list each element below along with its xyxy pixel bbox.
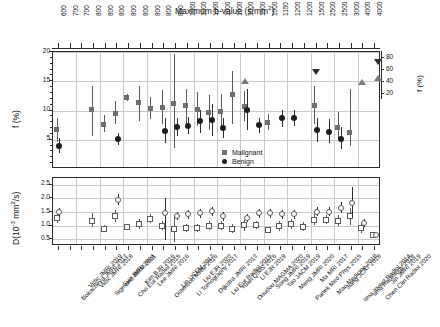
secondary-axis-tick-label: 60 [386, 66, 393, 73]
data-point-benign [244, 215, 250, 221]
top-axis-tick-label: 800 [119, 5, 126, 16]
gridline-vertical [147, 178, 148, 244]
bottom-axis-tick [304, 246, 305, 250]
gridline-horizontal [53, 198, 379, 199]
gridline-vertical [287, 52, 288, 167]
gridline-vertical [334, 178, 335, 244]
y-axis-tick-mark [49, 197, 52, 198]
data-point-malignant [323, 217, 329, 223]
bottom-axis-tick [280, 246, 281, 250]
data-point-malignant [311, 217, 317, 223]
top-axis-tick-label: 3000 [354, 2, 361, 16]
top-axis-tick-label: 4000 [377, 2, 384, 16]
top-axis-tick [105, 43, 106, 49]
top-axis-tick-label: 1000 [272, 2, 279, 16]
top-axis-tick-label: 800 [131, 5, 138, 16]
gridline-vertical [311, 178, 312, 244]
bottom-axis-tick [128, 246, 129, 250]
data-point-malignant [335, 218, 341, 224]
y-axis-minor-tick [50, 162, 52, 163]
data-point-benign [256, 122, 262, 128]
y-axis-tick-mark [49, 184, 52, 185]
data-point-malignant [171, 226, 177, 232]
bottom-axis-tick [163, 246, 164, 250]
y-axis-minor-tick [50, 110, 52, 111]
top-axis-tick [280, 43, 281, 49]
data-point-benign [373, 232, 379, 238]
data-point-malignant [148, 106, 153, 111]
top-axis-tick [339, 43, 340, 49]
bottom-axis-tick [316, 246, 317, 250]
data-point-benign [314, 209, 320, 215]
bottom-axis-tick [58, 246, 59, 250]
top-axis-tick-label: 800 [96, 5, 103, 16]
top-axis-tick-label: 800 [143, 5, 150, 16]
data-point-benign [326, 129, 332, 135]
figure-canvas: Maximum b-value (s/mm2) 6007007008008008… [0, 0, 440, 327]
y-axis-minor-tick [50, 63, 52, 64]
error-bar [165, 198, 166, 240]
secondary-axis-tick-label: 80 [386, 54, 393, 61]
top-axis-tick-label: 1000 [213, 2, 220, 16]
data-point-benign [338, 136, 344, 142]
top-axis-tick [351, 43, 352, 49]
data-point-malignant [113, 111, 118, 116]
gridline-vertical [194, 178, 195, 244]
data-point-benign [115, 136, 121, 142]
secondary-axis-tick-label: 20 [386, 90, 393, 97]
data-point-malignant [112, 213, 118, 219]
top-axis-tick-label: 1000 [237, 2, 244, 16]
y-axis-minor-tick [50, 145, 52, 146]
data-point-malignant [124, 95, 129, 100]
gridline-vertical [170, 52, 171, 167]
bottom-axis-tick [374, 246, 375, 250]
data-point-malignant [136, 221, 142, 227]
bottom-axis-tick [81, 246, 82, 250]
gridline-horizontal [53, 111, 379, 112]
bottom-axis-tick [70, 246, 71, 250]
top-axis-tick [58, 43, 59, 49]
bottom-axis-tick [210, 246, 211, 250]
secondary-axis-tick-label: 40 [386, 78, 393, 85]
d-axis-label: D(10-3 mm2/s) [12, 192, 21, 245]
data-point-malignant [229, 226, 235, 232]
top-axis-tick-label: 1500 [319, 2, 326, 16]
y-axis-minor-tick [50, 92, 52, 93]
data-point-malignant [288, 221, 294, 227]
top-axis-tick [327, 43, 328, 49]
y-axis-minor-tick [50, 86, 52, 87]
y-axis-minor-tick [50, 150, 52, 151]
top-axis-tick [222, 43, 223, 49]
top-axis-tick-label: 2500 [330, 2, 337, 16]
secondary-axis-tick [381, 93, 384, 94]
data-point-malignant [276, 223, 282, 229]
top-axis-tick [269, 43, 270, 49]
error-bar [232, 71, 233, 124]
gridline-vertical [358, 52, 359, 167]
top-axis-tick-label: 1000 [260, 2, 267, 16]
data-point-secondary [374, 59, 382, 65]
data-point-malignant [89, 218, 95, 224]
top-axis-tick-label: 1200 [307, 2, 314, 16]
data-point-secondary [374, 75, 382, 81]
legend-label-benign: Benign [230, 158, 254, 165]
data-point-malignant [136, 100, 141, 105]
data-point-malignant [101, 226, 107, 232]
gridline-vertical [170, 178, 171, 244]
top-axis-tick [210, 43, 211, 49]
gridline-vertical [287, 178, 288, 244]
gridline-vertical [76, 178, 77, 244]
bottom-axis-tick [222, 246, 223, 250]
top-axis-tick-label: 700 [84, 5, 91, 16]
top-axis-tick-label: 1000 [248, 2, 255, 16]
legend-marker-circle [218, 159, 230, 164]
top-axis-tick-label: 700 [73, 5, 80, 16]
data-point-malignant [183, 225, 189, 231]
y-axis-tick-mark [49, 211, 52, 212]
top-axis-tick-label: 1150 [283, 2, 290, 16]
bottom-axis-tick [198, 246, 199, 250]
top-axis-tick-label: 1000 [225, 2, 232, 16]
top-axis-tick [234, 43, 235, 49]
data-point-benign [209, 117, 215, 123]
top-axis-tick [362, 43, 363, 49]
